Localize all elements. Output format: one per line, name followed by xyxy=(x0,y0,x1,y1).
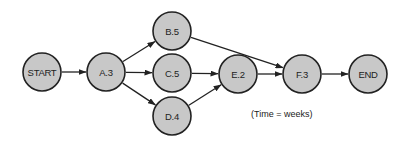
node-end: END xyxy=(349,55,387,93)
node-c: C.5 xyxy=(153,54,191,92)
node-label: F.3 xyxy=(296,69,308,80)
node-e: E.2 xyxy=(219,55,257,93)
node-label: B.5 xyxy=(165,26,178,37)
node-b: B.5 xyxy=(153,12,191,50)
node-label: D.4 xyxy=(165,111,179,122)
node-a: A.3 xyxy=(87,53,125,91)
node-label: A.3 xyxy=(99,67,112,78)
node-start: START xyxy=(23,53,61,91)
node-label: START xyxy=(28,67,57,78)
network-diagram: STARTA.3B.5C.5D.4E.2F.3END xyxy=(0,0,407,144)
node-label: C.5 xyxy=(165,68,179,79)
node-label: E.2 xyxy=(231,69,244,80)
node-label: END xyxy=(358,69,378,80)
edge-a-to-d xyxy=(123,83,156,105)
node-d: D.4 xyxy=(153,97,191,135)
time-unit-note: (Time = weeks) xyxy=(251,109,312,119)
node-f: F.3 xyxy=(283,55,321,93)
edge-d-to-e xyxy=(189,85,221,106)
edge-a-to-b xyxy=(123,42,155,62)
